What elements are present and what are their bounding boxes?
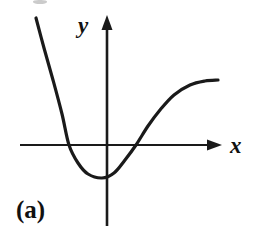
x-axis-group [20,140,222,151]
panel-label: (a) [16,197,45,222]
x-axis-label: x [230,134,242,157]
y-axis-arrow-head [102,15,113,30]
x-axis-arrow-head [207,140,222,151]
y-axis-group [102,15,113,226]
figure-panel: y x (a) [0,0,259,251]
function-curve [36,18,218,178]
y-axis-label: y [78,14,88,37]
